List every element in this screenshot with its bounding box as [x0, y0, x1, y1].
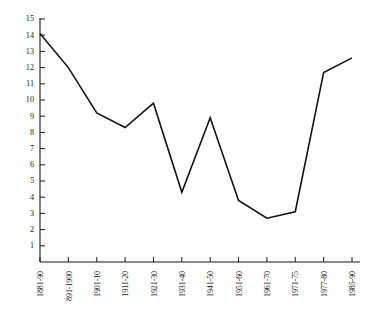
- x-tick-label: 1977-80: [320, 271, 329, 297]
- y-tick-label: 9: [30, 112, 34, 121]
- y-tick-label: 2: [30, 225, 34, 234]
- x-tick-label: 1931-40: [178, 271, 187, 297]
- x-tick-label: 1921-30: [150, 271, 159, 297]
- y-tick-label: 1: [30, 241, 34, 250]
- y-tick-label: 10: [26, 95, 34, 104]
- y-tick-label: 14: [26, 31, 34, 40]
- y-tick-label: 12: [26, 63, 34, 72]
- x-tick-labels: 1881-90891-19001901-101911-201921-301931…: [36, 271, 357, 301]
- y-tick-label: 4: [30, 193, 34, 202]
- chart-canvas: 123456789101112131415 1881-90891-1900190…: [0, 0, 366, 310]
- x-tick-label: 891-1900: [65, 271, 74, 301]
- x-tick-label: 1961-70: [263, 271, 272, 297]
- series-line: [40, 34, 352, 219]
- data-series: [40, 34, 352, 219]
- x-tick-label: 1971-75: [291, 271, 300, 297]
- x-tick-label: 1951-60: [235, 271, 244, 297]
- y-tick-label: 6: [30, 160, 34, 169]
- y-tick-label: 11: [26, 79, 34, 88]
- y-tick-label: 15: [26, 14, 34, 23]
- x-tick-label: 1881-90: [36, 271, 45, 297]
- x-tick-label: 1985-90: [348, 271, 357, 297]
- y-tick-label: 5: [30, 176, 34, 185]
- x-tick-label: 1911-20: [121, 271, 130, 297]
- y-axis: 123456789101112131415: [26, 14, 45, 262]
- y-tick-label: 8: [30, 128, 34, 137]
- x-tick-label: 1941-50: [206, 271, 215, 297]
- x-axis: [40, 257, 360, 262]
- x-tick-label: 1901-10: [93, 271, 102, 297]
- y-tick-label: 13: [26, 47, 34, 56]
- line-chart: 123456789101112131415 1881-90891-1900190…: [0, 0, 366, 310]
- y-tick-label: 3: [30, 209, 34, 218]
- y-tick-label: 7: [30, 144, 34, 153]
